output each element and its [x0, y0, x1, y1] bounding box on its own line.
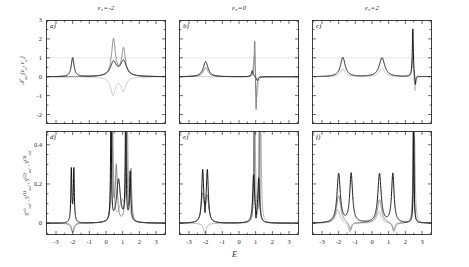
panel-label-f: f)	[316, 133, 320, 141]
y-tick-label: 0	[28, 219, 42, 226]
y-tick-label: -1	[28, 92, 42, 99]
curve-curve-black	[179, 169, 299, 223]
x-axis-label: E	[0, 250, 469, 259]
top-y-axis-label: 𝒯σσ'(εσ, εσ')	[18, 26, 27, 116]
x-tick-label: -3	[183, 238, 195, 245]
curve-curve-mid-gray	[46, 131, 166, 233]
curve-curve-black	[46, 131, 166, 223]
y-tick-label: 2	[28, 35, 42, 42]
x-tick-label: 2	[133, 238, 145, 245]
column-title-3: ε₃=2	[312, 4, 432, 12]
panel-c	[312, 20, 432, 124]
x-tick-label: -1	[216, 238, 228, 245]
curve-curve-light-gray	[46, 77, 166, 96]
curve-curve-black	[46, 58, 166, 77]
x-tick-label: -2	[67, 238, 79, 245]
x-tick-label: 1	[383, 238, 395, 245]
y-tick-label: 0.4	[28, 141, 42, 148]
panel-label-a: a)	[50, 22, 56, 30]
panel-label-e: e)	[183, 133, 188, 141]
column-title-1: ε₃=-2	[46, 4, 166, 12]
curve-curve-dark-gray	[179, 131, 299, 223]
panel-label-d: d)	[50, 133, 56, 141]
y-tick-label: 0.2	[28, 180, 42, 187]
x-tick-label: -3	[50, 238, 62, 245]
x-tick-label: 2	[399, 238, 411, 245]
x-tick-label: 3	[416, 238, 428, 245]
curve-curve-black	[312, 131, 432, 223]
figure-root: ε₃=-2 ε₃=0 ε₃=2 𝒯σσ'(εσ, εσ') Sabσσ' , S…	[0, 0, 469, 267]
x-tick-label: 1	[250, 238, 262, 245]
curve-curve-black	[179, 62, 299, 81]
y-tick-label: 1	[28, 54, 42, 61]
panel-d	[46, 131, 166, 235]
x-tick-label: 2	[266, 238, 278, 245]
x-tick-label: 3	[150, 238, 162, 245]
x-tick-label: -2	[333, 238, 345, 245]
panel-e	[179, 131, 299, 235]
x-tick-label: -3	[316, 238, 328, 245]
panel-label-b: b)	[183, 22, 189, 30]
column-title-2: ε₃=0	[179, 4, 299, 12]
x-tick-label: 0	[233, 238, 245, 245]
panel-label-c: c)	[316, 22, 321, 30]
panel-a	[46, 20, 166, 124]
y-tick-label: 3	[28, 16, 42, 23]
x-tick-label: 0	[366, 238, 378, 245]
panel-b	[179, 20, 299, 124]
x-tick-label: 3	[283, 238, 295, 245]
x-tick-label: -1	[83, 238, 95, 245]
x-tick-label: -2	[200, 238, 212, 245]
y-tick-label: 0	[28, 73, 42, 80]
curve-curve-dark-gray	[46, 131, 166, 232]
curve-curve-mid-gray	[179, 131, 299, 234]
panel-f	[312, 131, 432, 235]
x-tick-label: 0	[100, 238, 112, 245]
x-tick-label: -1	[349, 238, 361, 245]
y-tick-label: -2	[28, 111, 42, 118]
x-tick-label: 1	[117, 238, 129, 245]
